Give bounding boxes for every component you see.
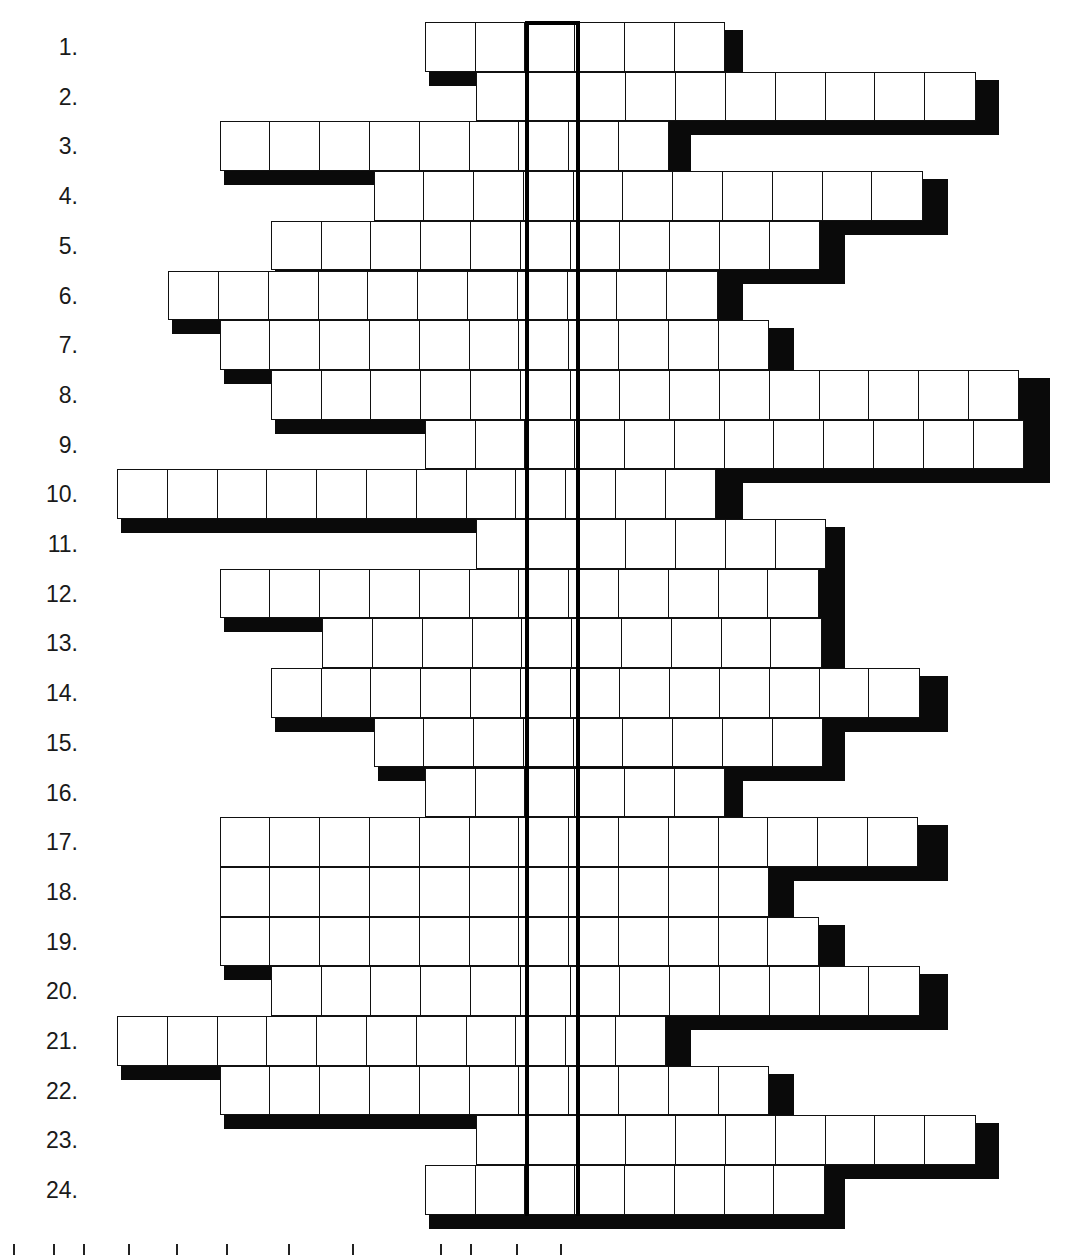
key-column-cell[interactable]: [524, 768, 575, 818]
letter-cell[interactable]: [619, 668, 670, 718]
letter-cell[interactable]: [316, 469, 367, 519]
letter-cell[interactable]: [669, 370, 720, 420]
letter-cell[interactable]: [422, 618, 473, 668]
key-column-cell[interactable]: [518, 320, 569, 370]
letter-cell[interactable]: [918, 370, 969, 420]
letter-cell[interactable]: [469, 1066, 520, 1116]
letter-cell[interactable]: [767, 917, 818, 967]
key-column-cell[interactable]: [515, 469, 566, 519]
letter-cell[interactable]: [725, 72, 776, 122]
letter-cell[interactable]: [819, 966, 870, 1016]
letter-cell[interactable]: [476, 519, 527, 569]
letter-cell[interactable]: [420, 966, 471, 1016]
letter-cell[interactable]: [574, 768, 625, 818]
letter-cell[interactable]: [825, 1115, 876, 1165]
letter-cell[interactable]: [117, 1016, 168, 1066]
letter-cell[interactable]: [366, 469, 417, 519]
letter-cell[interactable]: [319, 1066, 370, 1116]
key-column-cell[interactable]: [526, 519, 577, 569]
letter-cell[interactable]: [420, 370, 471, 420]
letter-cell[interactable]: [769, 221, 820, 271]
letter-cell[interactable]: [369, 917, 420, 967]
letter-cell[interactable]: [668, 569, 719, 619]
letter-cell[interactable]: [417, 271, 468, 321]
letter-cell[interactable]: [618, 1066, 669, 1116]
letter-cell[interactable]: [372, 618, 423, 668]
letter-cell[interactable]: [168, 271, 219, 321]
key-column-cell[interactable]: [518, 867, 569, 917]
letter-cell[interactable]: [618, 569, 669, 619]
letter-cell[interactable]: [775, 72, 826, 122]
letter-cell[interactable]: [718, 569, 769, 619]
letter-cell[interactable]: [871, 171, 922, 221]
letter-cell[interactable]: [668, 1066, 719, 1116]
letter-cell[interactable]: [622, 718, 673, 768]
letter-cell[interactable]: [568, 867, 619, 917]
letter-cell[interactable]: [271, 221, 322, 271]
letter-cell[interactable]: [419, 569, 470, 619]
letter-cell[interactable]: [574, 1165, 625, 1215]
letter-cell[interactable]: [622, 171, 673, 221]
letter-cell[interactable]: [769, 370, 820, 420]
letter-cell[interactable]: [725, 519, 776, 569]
letter-cell[interactable]: [266, 469, 317, 519]
letter-cell[interactable]: [269, 569, 320, 619]
letter-cell[interactable]: [269, 320, 320, 370]
letter-cell[interactable]: [476, 1115, 527, 1165]
letter-cell[interactable]: [419, 917, 470, 967]
letter-cell[interactable]: [425, 768, 476, 818]
key-column-cell[interactable]: [523, 171, 574, 221]
letter-cell[interactable]: [719, 221, 770, 271]
letter-cell[interactable]: [573, 718, 624, 768]
key-column-cell[interactable]: [518, 1066, 569, 1116]
letter-cell[interactable]: [466, 1016, 517, 1066]
letter-cell[interactable]: [725, 1115, 776, 1165]
letter-cell[interactable]: [873, 420, 924, 470]
key-column-cell[interactable]: [520, 221, 571, 271]
letter-cell[interactable]: [567, 271, 618, 321]
letter-cell[interactable]: [868, 370, 919, 420]
letter-cell[interactable]: [475, 420, 526, 470]
letter-cell[interactable]: [719, 668, 770, 718]
letter-cell[interactable]: [868, 668, 919, 718]
letter-cell[interactable]: [668, 320, 719, 370]
letter-cell[interactable]: [722, 718, 773, 768]
letter-cell[interactable]: [618, 121, 669, 171]
letter-cell[interactable]: [819, 668, 870, 718]
letter-cell[interactable]: [374, 718, 425, 768]
key-column-cell[interactable]: [523, 718, 574, 768]
letter-cell[interactable]: [721, 618, 772, 668]
letter-cell[interactable]: [369, 1066, 420, 1116]
letter-cell[interactable]: [321, 370, 372, 420]
letter-cell[interactable]: [823, 420, 874, 470]
letter-cell[interactable]: [319, 867, 370, 917]
letter-cell[interactable]: [773, 420, 824, 470]
letter-cell[interactable]: [772, 718, 823, 768]
letter-cell[interactable]: [672, 718, 723, 768]
letter-cell[interactable]: [319, 817, 370, 867]
letter-cell[interactable]: [419, 867, 470, 917]
letter-cell[interactable]: [718, 867, 769, 917]
letter-cell[interactable]: [469, 320, 520, 370]
letter-cell[interactable]: [322, 618, 373, 668]
letter-cell[interactable]: [724, 1165, 775, 1215]
letter-cell[interactable]: [419, 817, 470, 867]
letter-cell[interactable]: [773, 1165, 824, 1215]
letter-cell[interactable]: [269, 867, 320, 917]
letter-cell[interactable]: [220, 817, 271, 867]
letter-cell[interactable]: [269, 917, 320, 967]
letter-cell[interactable]: [674, 420, 725, 470]
letter-cell[interactable]: [268, 271, 319, 321]
letter-cell[interactable]: [220, 320, 271, 370]
letter-cell[interactable]: [271, 966, 322, 1016]
key-column-cell[interactable]: [518, 121, 569, 171]
letter-cell[interactable]: [817, 817, 868, 867]
letter-cell[interactable]: [470, 370, 521, 420]
letter-cell[interactable]: [369, 569, 420, 619]
letter-cell[interactable]: [718, 1066, 769, 1116]
letter-cell[interactable]: [675, 72, 726, 122]
key-column-cell[interactable]: [518, 817, 569, 867]
letter-cell[interactable]: [321, 668, 372, 718]
letter-cell[interactable]: [269, 817, 320, 867]
letter-cell[interactable]: [269, 121, 320, 171]
